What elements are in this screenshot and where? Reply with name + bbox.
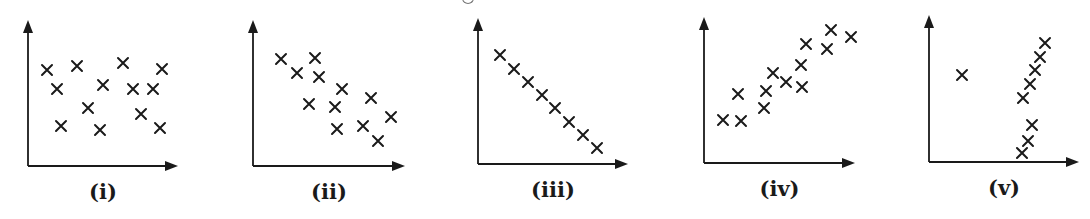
x-marker-icon <box>42 65 52 75</box>
x-marker-icon <box>1023 136 1033 146</box>
x-marker-icon <box>118 58 128 68</box>
plot-caption: (iii) <box>531 177 575 202</box>
x-marker-icon <box>578 130 588 140</box>
x-marker-icon <box>386 112 396 122</box>
x-marker-icon <box>592 143 602 153</box>
x-marker-icon <box>1018 93 1028 103</box>
x-marker-icon <box>366 93 376 103</box>
x-axis-arrow-icon <box>615 159 628 169</box>
x-marker-icon <box>537 90 547 100</box>
x-marker-icon <box>72 61 82 71</box>
x-marker-icon <box>56 121 66 131</box>
x-marker-icon <box>801 39 811 49</box>
x-marker-icon <box>1035 52 1045 62</box>
x-marker-icon <box>330 102 340 112</box>
x-marker-icon <box>52 84 62 94</box>
scatter-plot-3 <box>473 18 628 169</box>
plot-caption: (i) <box>89 179 117 204</box>
x-marker-icon <box>495 50 505 60</box>
x-marker-icon <box>136 109 146 119</box>
scatter-plot-2 <box>248 20 405 171</box>
scatter-plot-5 <box>924 15 1079 167</box>
x-marker-icon <box>155 123 165 133</box>
x-marker-icon <box>1017 148 1027 158</box>
x-marker-icon <box>1027 120 1037 130</box>
x-axis-arrow-icon <box>1066 157 1079 167</box>
x-marker-icon <box>304 99 314 109</box>
x-marker-icon <box>759 103 769 113</box>
x-marker-icon <box>292 68 302 78</box>
x-marker-icon <box>95 125 105 135</box>
plot-caption: (v) <box>988 175 1020 200</box>
x-marker-icon <box>733 89 743 99</box>
x-marker-icon <box>157 64 167 74</box>
scatter-plot-1 <box>23 20 178 171</box>
x-marker-icon <box>337 84 347 94</box>
y-axis-arrow-icon <box>248 20 258 33</box>
x-axis-arrow-icon <box>392 161 405 171</box>
x-marker-icon <box>736 116 746 126</box>
x-marker-icon <box>332 124 342 134</box>
scatter-plot-4 <box>699 17 856 168</box>
y-axis-arrow-icon <box>699 17 709 30</box>
plot-caption: (ii) <box>311 179 347 204</box>
x-axis-arrow-icon <box>165 161 178 171</box>
x-marker-icon <box>98 80 108 90</box>
x-marker-icon <box>314 72 324 82</box>
x-marker-icon <box>128 84 138 94</box>
x-marker-icon <box>276 54 286 64</box>
x-marker-icon <box>846 32 856 42</box>
x-marker-icon <box>509 64 519 74</box>
x-marker-icon <box>761 86 771 96</box>
x-marker-icon <box>550 103 560 113</box>
x-marker-icon <box>358 121 368 131</box>
x-marker-icon <box>83 103 93 113</box>
y-axis-arrow-icon <box>23 20 33 33</box>
x-marker-icon <box>796 60 806 70</box>
x-marker-icon <box>1030 65 1040 75</box>
x-marker-icon <box>768 68 778 78</box>
x-marker-icon <box>564 117 574 127</box>
x-axis-arrow-icon <box>842 158 855 168</box>
x-marker-icon <box>826 25 836 35</box>
x-marker-icon <box>957 70 967 80</box>
x-marker-icon <box>822 44 832 54</box>
x-marker-icon <box>781 77 791 87</box>
x-marker-icon <box>148 84 158 94</box>
x-marker-icon <box>1040 38 1050 48</box>
y-axis-arrow-icon <box>473 18 483 31</box>
y-axis-arrow-icon <box>924 15 934 28</box>
plot-caption: (iv) <box>759 176 799 201</box>
x-marker-icon <box>1025 79 1035 89</box>
x-marker-icon <box>797 82 807 92</box>
x-marker-icon <box>373 136 383 146</box>
x-marker-icon <box>310 53 320 63</box>
x-marker-icon <box>523 77 533 87</box>
x-marker-icon <box>718 115 728 125</box>
